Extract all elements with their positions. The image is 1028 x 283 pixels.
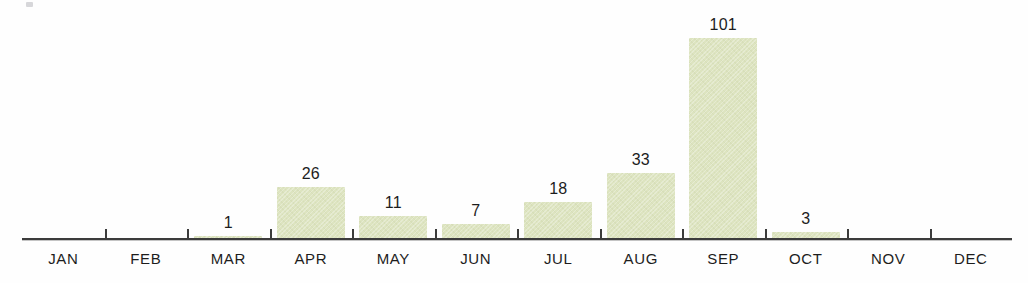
x-axis-tick: [600, 229, 602, 240]
bar-sep: [689, 38, 757, 238]
x-axis-label-apr: APR: [294, 250, 327, 267]
value-label-may: 11: [385, 194, 402, 212]
value-label-mar: 1: [224, 214, 233, 232]
value-label-jul: 18: [549, 180, 567, 198]
bar-texture: [442, 224, 510, 238]
x-axis-label-aug: AUG: [624, 250, 658, 267]
bar-may: [359, 216, 427, 238]
x-axis-tick: [270, 229, 272, 240]
value-label-jun: 7: [471, 202, 480, 220]
x-axis-shadow: [22, 240, 1012, 241]
bar-texture: [524, 202, 592, 238]
bar-aug: [607, 173, 675, 238]
x-axis-label-mar: MAR: [211, 250, 246, 267]
bar-texture: [359, 216, 427, 238]
x-axis-tick: [847, 229, 849, 240]
x-axis-label-may: MAY: [377, 250, 410, 267]
bar-apr: [277, 187, 345, 238]
x-axis-label-jul: JUL: [544, 250, 572, 267]
x-axis-tick: [765, 229, 767, 240]
x-axis-tick: [682, 229, 684, 240]
value-label-sep: 101: [710, 16, 737, 34]
bar-jul: [524, 202, 592, 238]
x-axis-label-dec: DEC: [954, 250, 987, 267]
x-axis-tick: [187, 229, 189, 240]
x-axis-label-sep: SEP: [707, 250, 739, 267]
bar-texture: [689, 38, 757, 238]
x-axis-tick: [352, 229, 354, 240]
x-axis-label-feb: FEB: [130, 250, 161, 267]
bar-jun: [442, 224, 510, 238]
value-label-aug: 33: [632, 151, 650, 169]
bar-texture: [277, 187, 345, 238]
x-axis-label-nov: NOV: [871, 250, 905, 267]
x-axis-tick: [517, 229, 519, 240]
x-axis-label-jan: JAN: [48, 250, 78, 267]
x-axis-tick: [105, 229, 107, 240]
bar-texture: [607, 173, 675, 238]
value-label-oct: 3: [801, 210, 810, 228]
x-axis-label-oct: OCT: [789, 250, 822, 267]
x-axis-label-jun: JUN: [460, 250, 491, 267]
x-axis-tick: [930, 229, 932, 240]
bar-chart: 12611718331013 JANFEBMARAPRMAYJUNJULAUGS…: [0, 0, 1028, 283]
value-label-apr: 26: [302, 165, 320, 183]
x-axis-tick: [435, 229, 437, 240]
